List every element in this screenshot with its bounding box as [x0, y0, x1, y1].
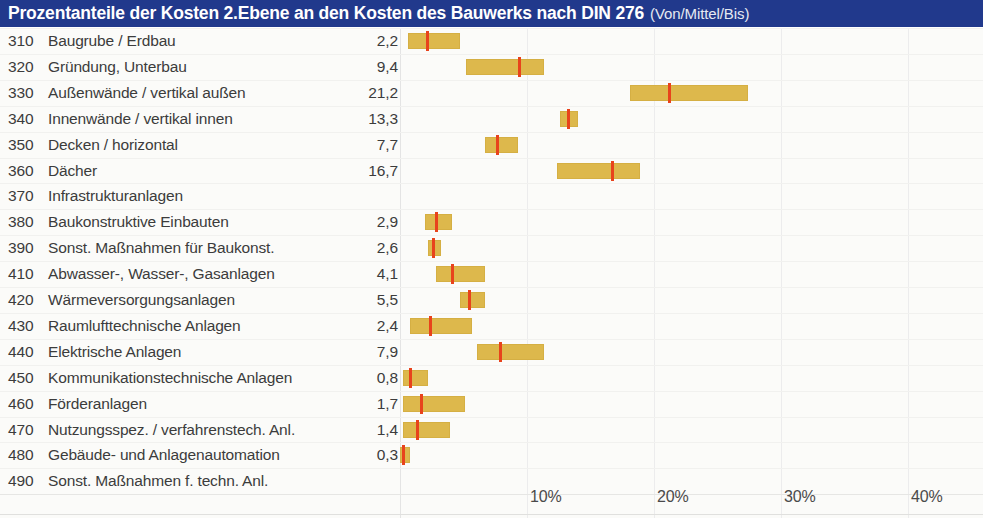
mean-marker — [518, 57, 521, 77]
row-label: Kommunikationstechnische Anlagen — [48, 365, 292, 391]
row-label: Förderanlagen — [48, 391, 147, 417]
row-value: 16,7 — [300, 158, 400, 184]
row-label: Infrastrukturanlagen — [48, 183, 183, 209]
table-row[interactable]: 470Nutzungsspez. / verfahrenstech. Anl.1… — [0, 417, 983, 443]
row-value — [300, 183, 400, 209]
chart-figure: Prozentanteile der Kosten 2.Ebene an den… — [0, 0, 983, 518]
mean-marker — [416, 420, 419, 440]
row-value: 2,2 — [300, 28, 400, 54]
table-row[interactable]: 410Abwasser-, Wasser-, Gasanlagen4,1 — [0, 261, 983, 287]
table-row[interactable]: 310Baugrube / Erdbau2,2 — [0, 28, 983, 54]
row-code: 480 — [8, 442, 46, 468]
row-code: 470 — [8, 417, 46, 443]
row-value: 1,7 — [300, 391, 400, 417]
range-band — [460, 292, 485, 308]
row-code: 350 — [8, 132, 46, 158]
chart-title-bar: Prozentanteile der Kosten 2.Ebene an den… — [0, 0, 983, 28]
row-label: Baukonstruktive Einbauten — [48, 209, 229, 235]
mean-marker — [451, 264, 454, 284]
row-code: 460 — [8, 391, 46, 417]
range-band — [436, 266, 486, 282]
mean-marker — [426, 31, 429, 51]
row-value: 7,7 — [300, 132, 400, 158]
table-row[interactable]: 320Gründung, Unterbau9,4 — [0, 54, 983, 80]
mean-marker — [611, 161, 614, 181]
range-band — [557, 163, 640, 179]
mean-marker — [499, 342, 502, 362]
mean-marker — [402, 445, 405, 465]
row-code: 320 — [8, 54, 46, 80]
row-code: 330 — [8, 80, 46, 106]
row-label: Gebäude- und Anlagenautomation — [48, 442, 280, 468]
row-label: Gründung, Unterbau — [48, 54, 187, 80]
row-label: Dächer — [48, 158, 97, 184]
row-code: 430 — [8, 313, 46, 339]
row-label: Decken / horizontal — [48, 132, 178, 158]
mean-marker — [432, 238, 435, 258]
range-band — [410, 318, 472, 334]
row-label: Raumlufttechnische Anlagen — [48, 313, 241, 339]
table-row[interactable]: 370Infrastrukturanlagen — [0, 183, 983, 209]
table-row[interactable]: 350Decken / horizontal7,7 — [0, 132, 983, 158]
mean-marker — [420, 394, 423, 414]
table-row[interactable]: 430Raumlufttechnische Anlagen2,4 — [0, 313, 983, 339]
row-label: Innenwände / vertikal innen — [48, 106, 233, 132]
range-band — [403, 422, 450, 438]
row-value: 5,5 — [300, 287, 400, 313]
mean-marker — [668, 83, 671, 103]
row-label: Abwasser-, Wasser-, Gasanlagen — [48, 261, 275, 287]
row-value: 4,1 — [300, 261, 400, 287]
mean-marker — [435, 212, 438, 232]
range-band — [485, 137, 518, 153]
table-row[interactable]: 330Außenwände / vertikal außen21,2 — [0, 80, 983, 106]
mean-marker — [429, 316, 432, 336]
range-band — [477, 344, 543, 360]
x-tick-30: 30% — [784, 482, 815, 512]
row-label: Baugrube / Erdbau — [48, 28, 176, 54]
range-band — [403, 370, 428, 386]
range-band — [425, 214, 452, 230]
row-value: 0,8 — [300, 365, 400, 391]
row-label: Nutzungsspez. / verfahrenstech. Anl. — [48, 417, 295, 443]
axis-baseline — [0, 514, 983, 515]
table-row[interactable]: 420Wärmeversorgungsanlagen5,5 — [0, 287, 983, 313]
row-value: 2,4 — [300, 313, 400, 339]
row-code: 380 — [8, 209, 46, 235]
x-axis-tick-labels: 10%20%30%40% — [0, 482, 983, 518]
title-subtitle: (Von/Mittel/Bis) — [650, 6, 749, 21]
row-code: 340 — [8, 106, 46, 132]
range-band — [403, 396, 465, 412]
table-row[interactable]: 360Dächer16,7 — [0, 158, 983, 184]
row-value: 1,4 — [300, 417, 400, 443]
range-band — [630, 85, 748, 101]
table-row[interactable]: 390Sonst. Maßnahmen für Baukonst.2,6 — [0, 235, 983, 261]
table-row[interactable]: 450Kommunikationstechnische Anlagen0,8 — [0, 365, 983, 391]
row-value: 2,9 — [300, 209, 400, 235]
x-tick-40: 40% — [911, 482, 942, 512]
row-value: 0,3 — [300, 442, 400, 468]
row-label: Elektrische Anlagen — [48, 339, 181, 365]
x-tick-10: 10% — [530, 482, 561, 512]
table-row[interactable]: 460Förderanlagen1,7 — [0, 391, 983, 417]
row-value: 21,2 — [300, 80, 400, 106]
row-code: 450 — [8, 365, 46, 391]
mean-marker — [496, 135, 499, 155]
table-row[interactable]: 440Elektrische Anlagen7,9 — [0, 339, 983, 365]
row-code: 420 — [8, 287, 46, 313]
row-code: 360 — [8, 158, 46, 184]
row-value: 7,9 — [300, 339, 400, 365]
table-row[interactable]: 340Innenwände / vertikal innen13,3 — [0, 106, 983, 132]
mean-marker — [567, 109, 570, 129]
row-label: Sonst. Maßnahmen für Baukonst. — [48, 235, 274, 261]
mean-marker — [409, 368, 412, 388]
row-code: 370 — [8, 183, 46, 209]
table-row[interactable]: 480Gebäude- und Anlagenautomation0,3 — [0, 442, 983, 468]
row-label: Außenwände / vertikal außen — [48, 80, 246, 106]
row-code: 410 — [8, 261, 46, 287]
row-value: 9,4 — [300, 54, 400, 80]
row-value: 2,6 — [300, 235, 400, 261]
row-label: Wärmeversorgungsanlagen — [48, 287, 235, 313]
range-band — [466, 59, 543, 75]
page-title: Prozentanteile der Kosten 2.Ebene an den… — [8, 5, 644, 23]
table-row[interactable]: 380Baukonstruktive Einbauten2,9 — [0, 209, 983, 235]
